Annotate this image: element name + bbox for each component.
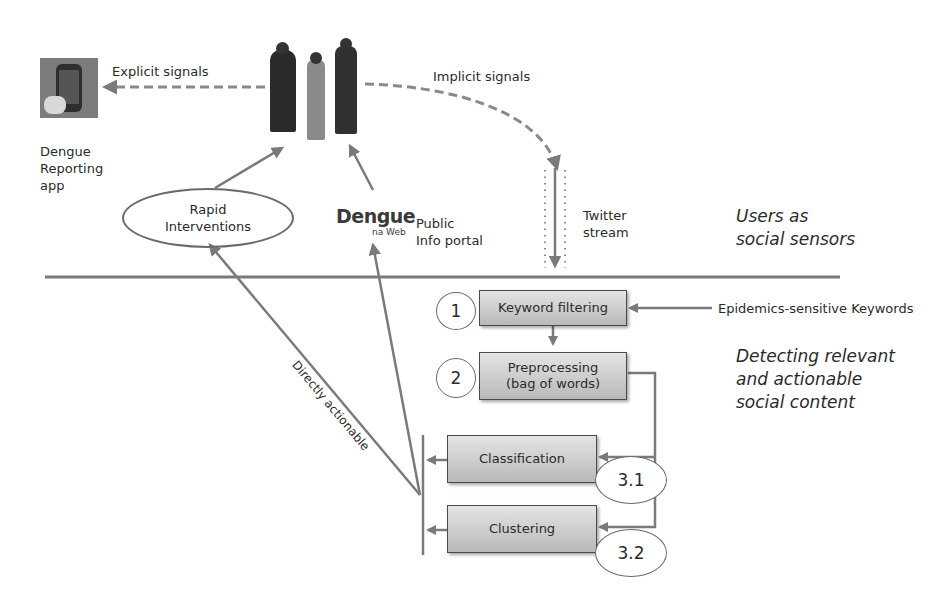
smartphone-app-icon [40,58,98,118]
preprocessing-box: Preprocessing (bag of words) [479,352,627,400]
twitter-stream-label: Twitter stream [583,207,629,241]
explicit-signals-label: Explicit signals [112,63,209,80]
people-group-icon [262,38,372,146]
public-info-portal-label: Public Info portal [416,215,483,249]
dengue-na-web-logo: Dengue na Web [336,205,415,227]
step-number-3-1: 3.1 [595,456,667,504]
keyword-filtering-box: Keyword filtering [479,290,627,326]
section-title-detecting-content: Detecting relevant and actionable social… [736,345,895,414]
implicit-signals-label: Implicit signals [433,68,530,85]
implicit-signals-arrow [365,84,557,168]
section-title-users-as-sensors: Users as social sensors [736,205,855,251]
app-label: Dengue Reporting app [40,143,103,194]
classification-box: Classification [447,435,597,483]
step-number-3-2: 3.2 [595,529,667,577]
clustering-box: Clustering [447,505,597,553]
step-number-2: 2 [436,358,476,398]
rapid-interventions-node: Rapid Interventions [122,188,294,248]
step-number-1: 1 [436,292,476,330]
epidemics-keywords-label: Epidemics-sensitive Keywords [718,300,913,317]
